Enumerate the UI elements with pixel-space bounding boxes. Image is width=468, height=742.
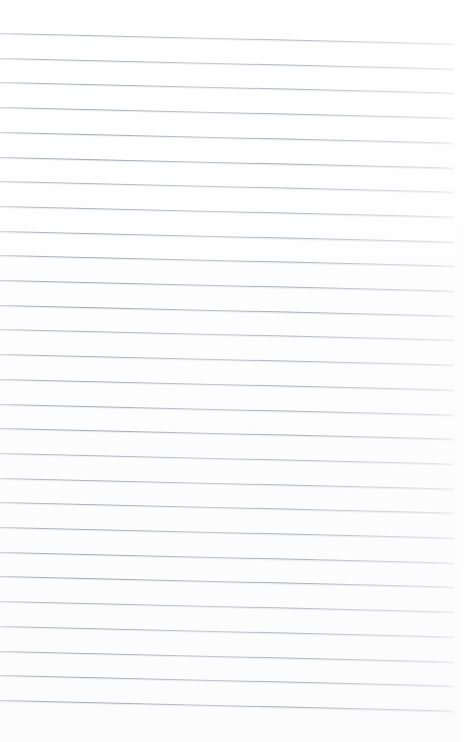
ruled-line xyxy=(0,502,454,513)
ruled-line xyxy=(0,255,454,266)
ruled-line xyxy=(0,354,454,365)
ruled-line xyxy=(0,132,454,143)
ruled-line xyxy=(0,157,454,168)
ruled-line-layer xyxy=(0,0,468,742)
ruled-line xyxy=(0,700,454,711)
ruled-line xyxy=(0,675,454,686)
ruled-line xyxy=(0,601,454,612)
ruled-line xyxy=(0,552,454,563)
ruled-line xyxy=(0,379,454,390)
ruled-line xyxy=(0,206,454,217)
ruled-line xyxy=(0,453,454,464)
ruled-line xyxy=(0,280,454,291)
ruled-line xyxy=(0,527,454,538)
ruled-line xyxy=(0,576,454,587)
ruled-line xyxy=(0,107,454,118)
ruled-line xyxy=(0,181,454,192)
ruled-line xyxy=(0,58,454,69)
ruled-line xyxy=(0,329,454,340)
ruled-line xyxy=(0,428,454,439)
ruled-line xyxy=(0,651,454,662)
ruled-line xyxy=(0,404,454,415)
ruled-line xyxy=(0,626,454,637)
ruled-line xyxy=(0,231,454,242)
notepad-page xyxy=(0,0,468,742)
ruled-line xyxy=(0,478,454,489)
ruled-line xyxy=(0,33,454,44)
ruled-line xyxy=(0,305,454,316)
ruled-line xyxy=(0,82,454,93)
